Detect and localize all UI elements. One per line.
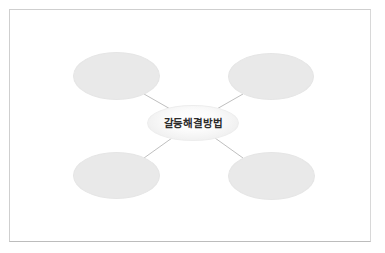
branch-node-bottom-left[interactable] [73, 152, 160, 199]
branch-node-top-left[interactable] [73, 52, 160, 100]
diagram-canvas: 갈등해결방법 [0, 0, 385, 253]
connector-bottom-right-to-center [215, 138, 243, 158]
center-node[interactable]: 갈등해결방법 [147, 105, 239, 141]
branch-node-top-right[interactable] [228, 53, 314, 100]
connector-bottom-left-to-center [144, 138, 172, 158]
center-node-label: 갈등해결방법 [164, 118, 223, 129]
branch-node-bottom-right[interactable] [228, 152, 315, 200]
